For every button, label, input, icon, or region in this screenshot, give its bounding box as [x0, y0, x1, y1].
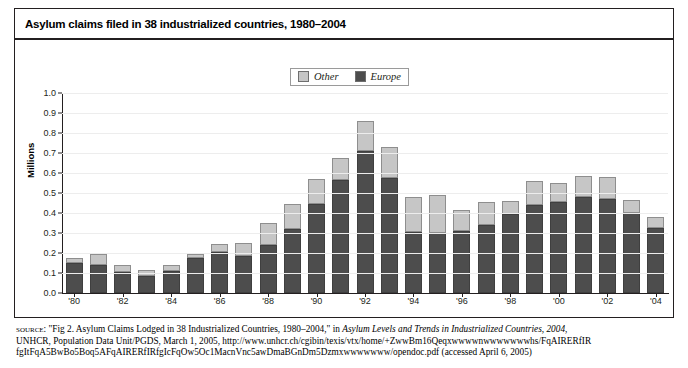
bar-segment-other [187, 254, 204, 258]
bar-segment-europe [235, 256, 252, 293]
plot-area: Millions 0.00.10.20.30.40.50.60.70.80.91… [0, 0, 688, 310]
y-gridline [62, 173, 668, 174]
bar-segment-europe [138, 276, 155, 293]
y-axis-tick-label: 0.6 [43, 168, 56, 178]
y-gridline [62, 153, 668, 154]
bar-1984 [163, 265, 180, 293]
y-axis-tick-label: 0.5 [43, 188, 56, 198]
bar-1986 [211, 244, 228, 293]
y-gridline [62, 213, 668, 214]
bar-1996 [453, 210, 470, 293]
y-axis-tick-label: 0.9 [43, 108, 56, 118]
bar-segment-other [623, 200, 640, 213]
bar-1994 [405, 197, 422, 293]
bar-2000 [550, 183, 567, 293]
source-line1-italic: Asylum Levels and Trends in Industrializ… [342, 324, 565, 334]
y-axis-tick-label: 0.4 [43, 208, 56, 218]
x-axis-tick-label: '00 [553, 296, 565, 306]
bar-segment-other [357, 121, 374, 151]
x-axis-tick-mark [462, 293, 463, 297]
y-axis-tick-mark [58, 273, 62, 274]
bar-1980 [66, 258, 83, 293]
y-axis-tick-mark [58, 133, 62, 134]
x-axis-tick-mark [220, 293, 221, 297]
y-axis-tick-label: 1.0 [43, 88, 56, 98]
bar-1987 [235, 243, 252, 293]
plot-canvas: 0.00.10.20.30.40.50.60.70.80.91.0'80'82'… [62, 93, 668, 293]
source-line-1: source: "Fig 2. Asylum Claims Lodged in … [16, 324, 674, 336]
y-axis-label: Millions [25, 143, 36, 178]
x-axis-tick-label: '90 [311, 296, 323, 306]
bar-1982 [114, 265, 131, 293]
x-axis-tick-mark [607, 293, 608, 297]
x-axis-tick-mark [317, 293, 318, 297]
bar-segment-europe [332, 180, 349, 293]
bar-segment-other [235, 243, 252, 256]
bar-1992 [357, 121, 374, 293]
bar-segment-other [114, 265, 131, 272]
source-label: source: [16, 324, 46, 334]
y-gridline [62, 133, 668, 134]
bar-segment-other [66, 258, 83, 263]
bar-2004 [647, 217, 664, 293]
bar-1999 [526, 181, 543, 293]
x-axis-tick-mark [656, 293, 657, 297]
figure-container: Asylum claims filed in 38 industrialized… [0, 0, 688, 368]
bar-segment-europe [575, 197, 592, 293]
bar-segment-other [260, 223, 277, 245]
y-axis-tick-label: 0.8 [43, 128, 56, 138]
x-axis-tick-label: '94 [408, 296, 420, 306]
x-axis-tick-mark [413, 293, 414, 297]
y-axis-tick-mark [58, 213, 62, 214]
bar-segment-europe [284, 229, 301, 293]
bar-segment-other [599, 177, 616, 199]
bar-segment-other [284, 204, 301, 228]
bar-segment-other [163, 265, 180, 271]
y-axis-tick-mark [58, 153, 62, 154]
source-note: source: "Fig 2. Asylum Claims Lodged in … [16, 324, 674, 359]
x-axis-tick-label: '04 [650, 296, 662, 306]
source-line-3: fgItFqA5BwBo5Boq5AFqAIRERfIRfgIcFqOw5Oc1… [16, 347, 674, 359]
y-axis-tick-label: 0.3 [43, 228, 56, 238]
y-axis-tick-mark [58, 253, 62, 254]
y-axis-tick-label: 0.7 [43, 148, 56, 158]
y-axis-tick-mark [58, 173, 62, 174]
bar-segment-other [647, 217, 664, 228]
source-line1-post: , [565, 324, 567, 334]
bar-1995 [429, 195, 446, 293]
x-axis-tick-label: '80 [68, 296, 80, 306]
bar-segment-europe [405, 232, 422, 293]
bar-1997 [478, 202, 495, 293]
y-axis-tick-label: 0.1 [43, 268, 56, 278]
y-gridline [62, 113, 668, 114]
bar-2002 [599, 177, 616, 293]
y-gridline [62, 193, 668, 194]
bar-1989 [284, 204, 301, 293]
x-axis-tick-mark [268, 293, 269, 297]
bar-segment-other [211, 244, 228, 252]
y-gridline [62, 273, 668, 274]
bar-segment-other [90, 254, 107, 265]
x-axis-tick-mark [365, 293, 366, 297]
y-axis-tick-label: 0.0 [43, 288, 56, 298]
bar-segment-europe [550, 202, 567, 293]
bar-segment-other [429, 195, 446, 233]
bar-segment-europe [381, 178, 398, 293]
x-axis-tick-mark [171, 293, 172, 297]
bar-1990 [308, 179, 325, 293]
bar-segment-europe [308, 204, 325, 293]
bar-segment-other [332, 158, 349, 180]
x-axis-tick-label: '98 [505, 296, 517, 306]
x-axis-tick-label: '92 [359, 296, 371, 306]
bar-segment-europe [66, 263, 83, 293]
x-axis-tick-label: '84 [165, 296, 177, 306]
y-gridline [62, 233, 668, 234]
bar-segment-europe [187, 258, 204, 293]
x-axis-tick-label: '86 [214, 296, 226, 306]
y-axis-tick-mark [58, 193, 62, 194]
y-axis-tick-label: 0.2 [43, 248, 56, 258]
x-axis-tick-label: '82 [117, 296, 129, 306]
y-axis-tick-mark [58, 113, 62, 114]
source-line1-pre: "Fig 2. Asylum Claims Lodged in 38 Indus… [46, 324, 342, 334]
x-axis-tick-mark [123, 293, 124, 297]
